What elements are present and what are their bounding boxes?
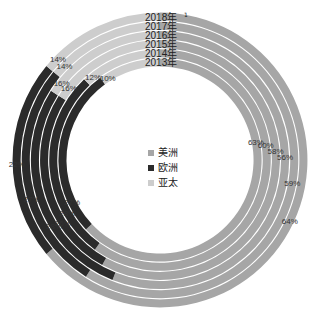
percentage-label: 14% xyxy=(50,55,66,64)
footnote-mark: 1 xyxy=(184,11,188,18)
legend-swatch-europe xyxy=(148,165,154,171)
percentage-label: 59% xyxy=(284,179,300,188)
chart-legend: 美洲 欧洲 亚太 xyxy=(148,145,178,190)
percentage-label: 28% xyxy=(46,222,62,231)
percentage-label: 56% xyxy=(277,153,293,162)
legend-swatch-asia-pacific xyxy=(148,180,154,186)
percentage-label: 22% xyxy=(9,160,25,169)
legend-label-europe: 欧洲 xyxy=(158,160,178,175)
percentage-label: 12% xyxy=(85,73,101,82)
legend-label-asia-pacific: 亚太 xyxy=(158,175,178,190)
legend-swatch-americas xyxy=(148,150,154,156)
legend-item-asia-pacific: 亚太 xyxy=(148,175,178,190)
year-label: 2018年 xyxy=(145,11,177,23)
legend-item-americas: 美洲 xyxy=(148,145,178,160)
percentage-label: 27% xyxy=(23,195,39,204)
percentage-label: 10% xyxy=(100,74,116,83)
legend-label-americas: 美洲 xyxy=(158,145,178,160)
percentage-label: 28% xyxy=(59,209,75,218)
percentage-label: 16% xyxy=(54,79,70,88)
percentage-label: 64% xyxy=(282,217,298,226)
legend-item-europe: 欧洲 xyxy=(148,160,178,175)
percentage-label: 27% xyxy=(64,198,80,207)
